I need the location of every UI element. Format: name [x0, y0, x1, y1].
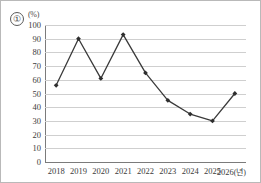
y-axis-tick-label: 70: [7, 61, 41, 71]
series-line: [56, 35, 235, 121]
x-axis-tick-label: 2023: [159, 166, 176, 176]
gridline: [45, 162, 246, 163]
y-axis-tick-labels: 0102030405060708090100: [1, 25, 41, 162]
y-axis-tick-label: 0: [7, 157, 41, 167]
plot-area: [45, 25, 246, 162]
y-axis-tick-label: 20: [7, 130, 41, 140]
x-axis-tick-label: 2020: [92, 166, 109, 176]
y-axis-tick-label: 60: [7, 75, 41, 85]
chart-figure: ① (%) 0102030405060708090100 20182019202…: [0, 0, 261, 183]
y-axis-tick-label: 80: [7, 47, 41, 57]
x-axis-tick-label: 2022: [137, 166, 154, 176]
y-axis-unit-label: (%): [28, 10, 39, 19]
y-axis-tick-label: 10: [7, 143, 41, 153]
x-axis-tick-label: 2021: [115, 166, 132, 176]
x-axis-tick-label: 2018: [48, 166, 65, 176]
data-point-marker: [54, 83, 59, 88]
x-axis-tick-label: 2026(년): [217, 166, 246, 177]
x-axis-tick-label: 2024: [182, 166, 199, 176]
y-axis-tick-label: 30: [7, 116, 41, 126]
x-axis-tick-label: 2019: [70, 166, 87, 176]
y-axis-tick-label: 40: [7, 102, 41, 112]
y-axis-tick-label: 50: [7, 89, 41, 99]
line-series: [45, 25, 246, 162]
y-axis-tick-label: 100: [7, 20, 41, 30]
y-axis-tick-label: 90: [7, 34, 41, 44]
